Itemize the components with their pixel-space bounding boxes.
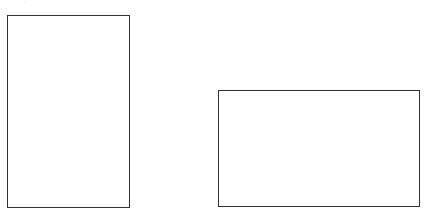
landscape-rectangle [218, 90, 420, 207]
portrait-rectangle [7, 15, 130, 208]
cropped-text-fragment: . [24, 0, 26, 5]
